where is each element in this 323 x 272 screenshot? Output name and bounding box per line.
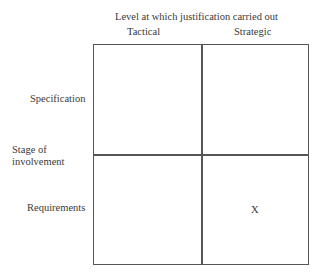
row-label-requirements: Requirements xyxy=(27,202,85,214)
row-axis-title-line1: Stage of xyxy=(12,144,47,156)
row-label-specification: Specification xyxy=(30,93,85,105)
column-axis-title: Level at which justification carried out xyxy=(115,11,278,23)
column-header-tactical: Tactical xyxy=(127,26,160,38)
row-divider xyxy=(93,154,309,156)
column-header-strategic: Strategic xyxy=(234,26,271,38)
cell-strategic-requirements-marker: X xyxy=(251,204,259,216)
row-axis-title-line2: involvement xyxy=(12,156,65,168)
